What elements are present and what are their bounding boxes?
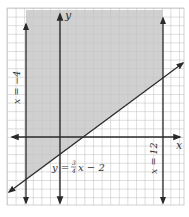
svg-text:3: 3 (72, 159, 76, 166)
label-x-neg4: x = −4 (11, 71, 22, 104)
label-x-12: x = 12 (148, 143, 159, 174)
label-slanted-line: y = 3 4 x − 2 (51, 159, 105, 174)
svg-text:4: 4 (71, 167, 76, 174)
svg-text:y =: y = (51, 162, 69, 173)
svg-text:x − 2: x − 2 (78, 162, 105, 173)
graph-canvas: y x x = −4 x = 12 y = 3 4 x − 2 (0, 0, 189, 217)
x-axis-label: x (176, 139, 183, 152)
y-axis-label: y (64, 9, 72, 22)
